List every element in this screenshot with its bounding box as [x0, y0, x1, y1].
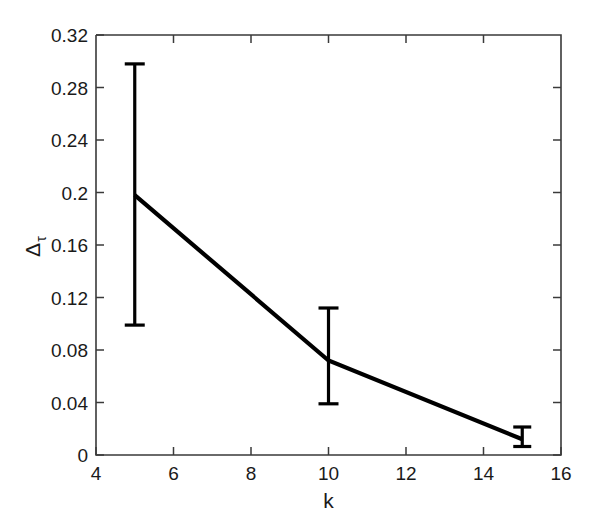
- line-chart-with-error-bars: 0 0.04 0.08 0.12 0.16 0.2 0.24 0.28 0.32…: [0, 0, 595, 523]
- chart-figure: 0 0.04 0.08 0.12 0.16 0.2 0.24 0.28 0.32…: [0, 0, 595, 523]
- x-tick-label-8: 8: [246, 463, 257, 484]
- y-tick-label-0-08: 0.08: [51, 340, 88, 361]
- x-tick-labels: 4 6 8 10 12 14 16: [91, 463, 572, 484]
- y-tick-label-0-12: 0.12: [51, 288, 88, 309]
- y-tick-label-0-32: 0.32: [51, 25, 88, 46]
- x-tick-label-14: 14: [473, 463, 495, 484]
- x-axis-title: k: [323, 489, 334, 512]
- y-tick-label-0-28: 0.28: [51, 78, 88, 99]
- x-tick-label-10: 10: [318, 463, 339, 484]
- y-axis-title-subscript: τ: [33, 236, 49, 242]
- error-bar-k5: [125, 64, 145, 325]
- y-axis-title-group: Δ τ: [21, 236, 49, 257]
- y-tick-label-0-24: 0.24: [51, 130, 88, 151]
- y-tick-label-0-04: 0.04: [51, 393, 88, 414]
- error-bars: [125, 64, 532, 447]
- x-tick-label-12: 12: [395, 463, 416, 484]
- y-tick-label-0-16: 0.16: [51, 235, 88, 256]
- x-tick-label-16: 16: [550, 463, 571, 484]
- y-tick-label-0: 0: [77, 445, 88, 466]
- y-axis-title: Δ: [21, 243, 44, 257]
- y-tick-label-0-2: 0.2: [62, 183, 88, 204]
- x-tick-label-4: 4: [91, 463, 102, 484]
- y-tick-labels: 0 0.04 0.08 0.12 0.16 0.2 0.24 0.28 0.32: [51, 25, 88, 466]
- x-tick-label-6: 6: [168, 463, 179, 484]
